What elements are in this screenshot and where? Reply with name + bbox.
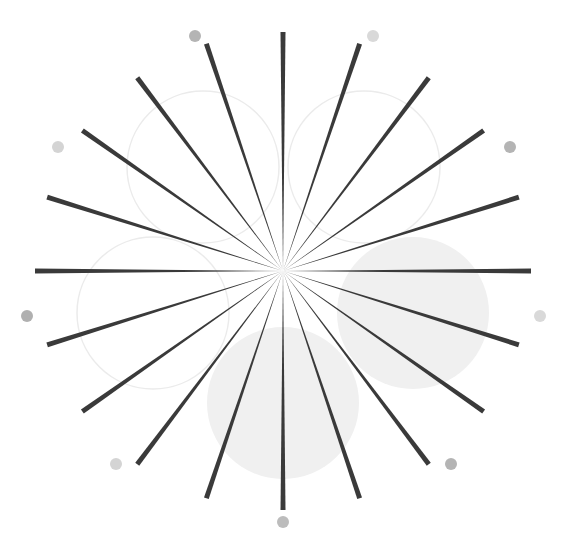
spoke-4	[283, 43, 362, 271]
dot-upper-right	[504, 141, 516, 153]
spoke-9	[46, 195, 283, 271]
dot-lower-right	[445, 458, 457, 470]
dot-lower-left	[110, 458, 122, 470]
dot-right	[534, 310, 546, 322]
dot-top-left	[189, 30, 201, 42]
dot-upper-left	[52, 141, 64, 153]
spoke-5	[281, 32, 286, 271]
starburst-canvas	[0, 0, 563, 540]
spoke-6	[204, 43, 283, 271]
top-right-outline-circle	[288, 91, 440, 243]
radial-figure	[0, 0, 563, 540]
spokes	[35, 32, 531, 510]
spoke-10	[35, 269, 283, 274]
spoke-7	[135, 76, 283, 271]
dot-top-right	[367, 30, 379, 42]
dot-bottom	[277, 516, 289, 528]
dot-left	[21, 310, 33, 322]
